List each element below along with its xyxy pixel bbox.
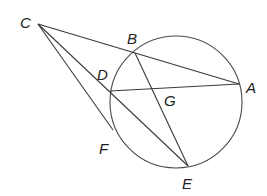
segment-d-a	[110, 84, 239, 91]
label-b: B	[127, 30, 137, 47]
label-f: F	[99, 140, 109, 157]
label-g: G	[164, 92, 176, 109]
geometry-diagram: C B A D G F E	[0, 0, 267, 196]
label-a: A	[245, 79, 256, 96]
segment-c-a	[38, 24, 239, 84]
label-e: E	[182, 175, 193, 192]
circle	[110, 36, 242, 168]
label-c: C	[20, 14, 31, 31]
label-d: D	[97, 66, 108, 83]
segment-b-e	[135, 53, 188, 166]
